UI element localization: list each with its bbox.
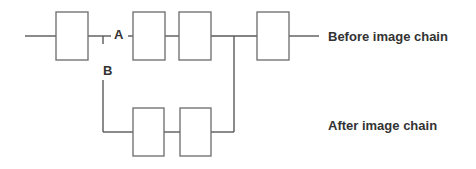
processing-block-5 (133, 108, 164, 156)
point-a-label: A (114, 27, 124, 42)
processing-block-2 (133, 12, 165, 60)
before-chain-label: Before image chain (328, 29, 448, 44)
image-chain-diagram: A B Before image chain After image chain (0, 0, 476, 169)
processing-block-3 (179, 12, 211, 60)
processing-block-4 (257, 12, 289, 60)
after-chain-label: After image chain (328, 118, 437, 133)
point-b-label: B (103, 63, 112, 78)
processing-block-6 (180, 108, 211, 156)
processing-block-1 (56, 12, 88, 60)
